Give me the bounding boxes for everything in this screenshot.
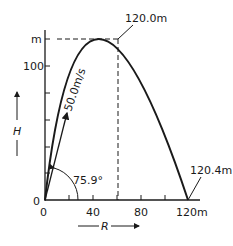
y-tick-label-0: 0	[33, 195, 40, 208]
range-leader	[188, 177, 201, 200]
x-ticks	[69, 195, 165, 200]
angle-label: 75.9°	[73, 174, 103, 187]
trajectory-curve	[45, 39, 188, 200]
max-height-label: 120.0m	[125, 12, 167, 25]
y-ticks	[45, 39, 50, 173]
velocity-label: 50.0m/s	[62, 66, 89, 113]
x-tick-label-0: 0	[40, 206, 47, 219]
x-tick-label-40: 40	[86, 206, 100, 219]
y-unit-label: m	[31, 33, 42, 46]
range-label: 120.4m	[190, 164, 232, 177]
x-axis-label: R	[101, 220, 109, 233]
trajectory-diagram: m 100 0 H 0 40 80 120m R 120.0m 120.4m 7…	[0, 0, 233, 246]
y-axis-label: H	[13, 125, 21, 138]
max-height-leader	[118, 25, 133, 39]
x-tick-label-120: 120m	[176, 206, 208, 219]
x-tick-label-80: 80	[134, 206, 148, 219]
y-tick-label-100: 100	[23, 60, 44, 73]
